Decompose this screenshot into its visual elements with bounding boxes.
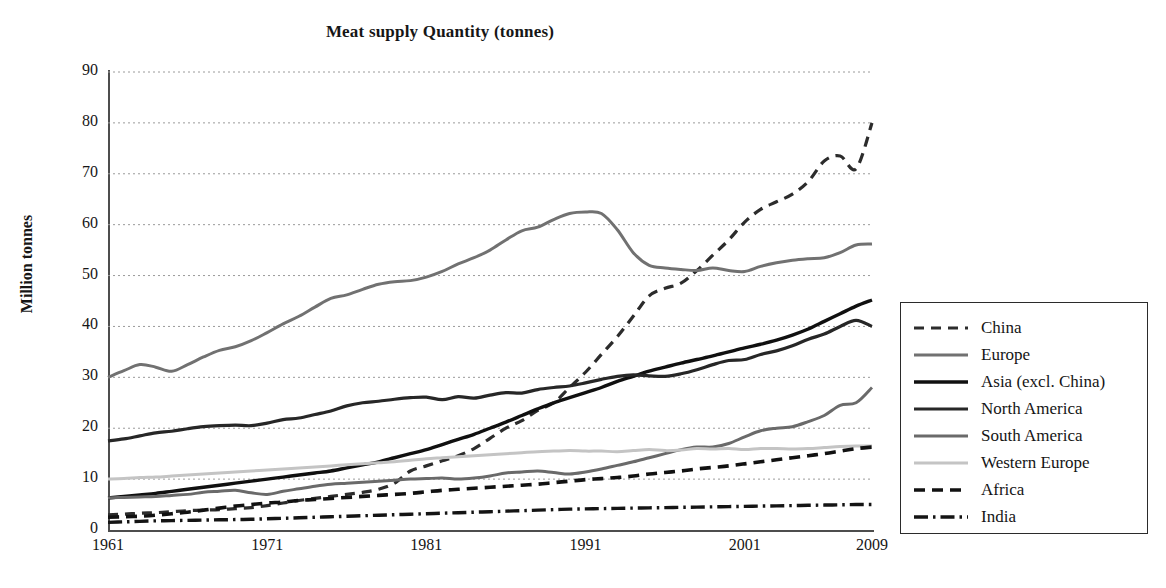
y-tick-label: 0 bbox=[62, 519, 98, 537]
y-tick-label: 10 bbox=[62, 468, 98, 486]
legend-line-swatch-icon bbox=[913, 402, 969, 416]
legend-line-swatch-icon bbox=[913, 483, 969, 497]
y-tick-label: 40 bbox=[62, 315, 98, 333]
y-tick-label: 50 bbox=[62, 265, 98, 283]
x-tick-label: 1961 bbox=[63, 536, 153, 554]
y-axis-label: Million tonnes bbox=[18, 154, 36, 374]
x-tick-label: 2001 bbox=[700, 536, 790, 554]
legend-item-label: Europe bbox=[981, 346, 1030, 363]
chart-legend: ChinaEuropeAsia (excl. China)North Ameri… bbox=[900, 302, 1148, 534]
page-title: Meat supply Quantity (tonnes) bbox=[0, 22, 880, 42]
y-tick-label: 70 bbox=[62, 163, 98, 181]
legend-item-label: China bbox=[981, 319, 1022, 336]
plot-area bbox=[108, 72, 872, 530]
legend-item-africa[interactable]: Africa bbox=[913, 476, 1137, 503]
y-tick-label: 20 bbox=[62, 417, 98, 435]
y-tick-label: 90 bbox=[62, 61, 98, 79]
series-line-asia-excl-china bbox=[108, 300, 872, 498]
x-tick-label: 2009 bbox=[827, 536, 917, 554]
series-line-south-america bbox=[108, 388, 872, 498]
legend-item-label: Africa bbox=[981, 481, 1024, 498]
legend-line-swatch-icon bbox=[913, 321, 969, 335]
legend-item-south-america[interactable]: South America bbox=[913, 422, 1137, 449]
legend-item-north-america[interactable]: North America bbox=[913, 395, 1137, 422]
legend-item-label: North America bbox=[981, 400, 1083, 417]
legend-line-swatch-icon bbox=[913, 456, 969, 470]
legend-item-china[interactable]: China bbox=[913, 314, 1137, 341]
x-tick-label: 1981 bbox=[381, 536, 471, 554]
x-tick-label: 1991 bbox=[541, 536, 631, 554]
legend-item-europe[interactable]: Europe bbox=[913, 341, 1137, 368]
x-tick-label: 1971 bbox=[222, 536, 312, 554]
legend-item-label: South America bbox=[981, 427, 1083, 444]
legend-line-swatch-icon bbox=[913, 375, 969, 389]
y-tick-label: 60 bbox=[62, 214, 98, 232]
legend-line-swatch-icon bbox=[913, 348, 969, 362]
legend-item-india[interactable]: India bbox=[913, 503, 1137, 530]
legend-item-label: Western Europe bbox=[981, 454, 1090, 471]
series-line-north-america bbox=[108, 320, 872, 441]
series-line-europe bbox=[108, 212, 872, 378]
chart-page: Meat supply Quantity (tonnes) Million to… bbox=[0, 0, 1166, 588]
y-tick-label: 80 bbox=[62, 112, 98, 130]
legend-item-label: India bbox=[981, 508, 1016, 525]
legend-line-swatch-icon bbox=[913, 429, 969, 443]
legend-item-western-europe[interactable]: Western Europe bbox=[913, 449, 1137, 476]
x-axis-line bbox=[108, 530, 874, 532]
y-tick-label: 30 bbox=[62, 366, 98, 384]
legend-item-asia-excl-china[interactable]: Asia (excl. China) bbox=[913, 368, 1137, 395]
legend-line-swatch-icon bbox=[913, 510, 969, 524]
legend-item-label: Asia (excl. China) bbox=[981, 373, 1105, 390]
